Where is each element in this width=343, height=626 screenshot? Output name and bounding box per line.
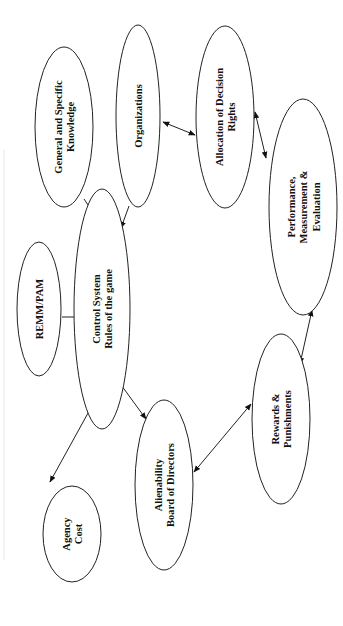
node-ellipse	[74, 189, 130, 429]
node-label: Control SystemRules of the game	[91, 269, 115, 349]
node-remm: REMM/PAM	[17, 242, 61, 376]
node-ellipse	[35, 47, 93, 207]
nodes-layer: General and SpecificKnowledgeOrganizatio…	[17, 25, 337, 582]
node-knowledge: General and SpecificKnowledge	[35, 47, 93, 207]
node-agency: AgencyCost	[43, 486, 101, 582]
node-organizations: Organizations	[116, 25, 160, 207]
node-label-line: Rules of the game	[103, 269, 114, 349]
node-label-line: General and Specific	[53, 80, 64, 174]
node-label-line: Alienability	[153, 458, 164, 511]
node-label-line: Evaluation	[311, 182, 322, 231]
edge-performance-rewards	[300, 310, 312, 364]
edge-allocation-performance	[255, 112, 266, 158]
node-label-line: Rights	[226, 102, 237, 131]
edge-agency-control	[50, 404, 93, 482]
node-label-line: REMM/PAM	[34, 279, 45, 340]
node-label-line: Knowledge	[65, 102, 76, 153]
node-ellipse	[43, 486, 101, 582]
node-label-line: Agency	[61, 517, 72, 551]
node-label-line: Measurement &	[298, 170, 309, 243]
node-ellipse	[135, 400, 193, 570]
node-allocation: Allocation of DecisionRights	[196, 26, 254, 208]
control-system-diagram: General and SpecificKnowledgeOrganizatio…	[0, 0, 343, 626]
node-label: Organizations	[133, 84, 144, 148]
node-ellipse	[252, 334, 310, 504]
node-performance: Performance,Measurement &Evaluation	[269, 99, 337, 315]
node-ellipse	[196, 26, 254, 208]
edge-organizations-allocation	[163, 122, 195, 135]
node-label-line: Allocation of Decision	[214, 68, 225, 166]
node-label: REMM/PAM	[34, 279, 45, 340]
node-label: Rewards &Punishments	[270, 390, 294, 448]
node-label-line: Board of Directors	[165, 443, 176, 527]
node-rewards: Rewards &Punishments	[252, 334, 310, 504]
node-alienability: AlienabilityBoard of Directors	[135, 400, 193, 570]
node-label-line: Cost	[73, 523, 84, 544]
node-label-line: Punishments	[282, 390, 293, 448]
node-control: Control SystemRules of the game	[74, 189, 130, 429]
edge-rewards-alienability	[194, 404, 251, 472]
node-label-line: Organizations	[133, 84, 144, 148]
node-label-line: Rewards &	[270, 393, 281, 444]
node-label-line: Performance,	[286, 176, 297, 237]
node-label-line: Control System	[91, 274, 102, 344]
